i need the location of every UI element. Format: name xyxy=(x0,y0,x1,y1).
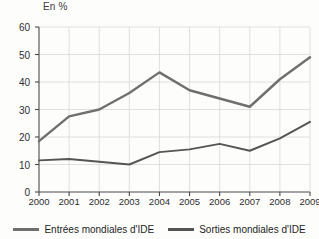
fdi-line-chart: En % 0102030405060 200020012002200320042… xyxy=(0,0,319,239)
legend-label-entrees: Entrées mondiales d'IDE xyxy=(44,224,154,235)
chart-legend: Entrées mondiales d'IDE Sorties mondiale… xyxy=(0,219,319,239)
legend-line-icon-sorties xyxy=(168,228,194,231)
plot-area xyxy=(0,0,319,239)
legend-item-sorties: Sorties mondiales d'IDE xyxy=(168,224,305,235)
legend-line-icon-entrees xyxy=(13,228,39,231)
legend-item-entrees: Entrées mondiales d'IDE xyxy=(13,224,154,235)
legend-label-sorties: Sorties mondiales d'IDE xyxy=(199,224,305,235)
horizontal-gridlines xyxy=(39,27,310,165)
series-lines xyxy=(39,57,310,164)
axis-tick-marks xyxy=(35,27,310,196)
